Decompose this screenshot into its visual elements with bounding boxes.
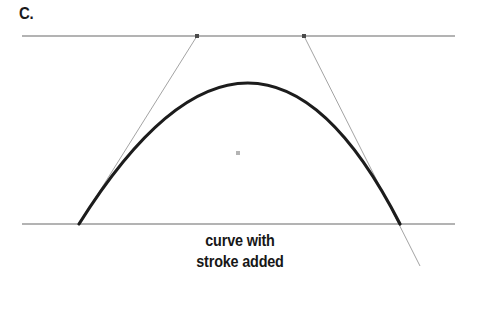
- control-point-right-handle[interactable]: [302, 34, 306, 38]
- caption-line-1: curve with: [24, 230, 456, 251]
- figure-container: C. curve with stroke added: [0, 0, 480, 309]
- control-point-left-handle[interactable]: [195, 34, 199, 38]
- center-anchor-dot[interactable]: [236, 151, 240, 155]
- caption-line-2: stroke added: [24, 251, 456, 272]
- figure-caption: curve with stroke added: [0, 230, 480, 272]
